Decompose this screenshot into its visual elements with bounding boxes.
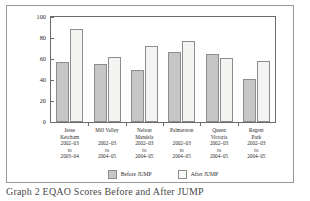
bar-after: [257, 61, 270, 122]
bar-before: [168, 52, 181, 122]
bar-before: [94, 64, 107, 122]
x-axis-label-line: to: [234, 147, 279, 154]
x-axis-tick-mark: [163, 123, 164, 126]
y-axis-tick-mark: [50, 17, 54, 18]
bar-after: [70, 29, 83, 122]
y-axis-tick-label: 20: [40, 98, 46, 104]
x-axis-label-line: 2004–05: [234, 153, 279, 160]
x-axis-labels: JesseKetcham2002–03to2003–04Mill Valley2…: [50, 127, 276, 169]
x-axis-label-line: 2002–03: [234, 140, 279, 147]
y-axis-tick-mark: [50, 38, 54, 39]
y-axis-tick-label: 80: [40, 35, 46, 41]
bar-before: [56, 62, 69, 122]
bar-after: [145, 46, 158, 122]
bar-after: [220, 58, 233, 122]
legend-swatch-before-icon: [108, 170, 117, 179]
y-axis-tick-mark: [50, 80, 54, 81]
x-axis-tick-mark: [88, 123, 89, 126]
legend-label-after: After JUMP: [191, 171, 219, 177]
bar-after: [182, 41, 195, 122]
bar-after: [108, 57, 121, 122]
y-axis-tick-mark: [50, 101, 54, 102]
y-axis: 020406080100: [20, 10, 50, 130]
x-axis-label-line: Regent: [234, 127, 279, 134]
legend-item-after[interactable]: After JUMP: [178, 170, 219, 179]
chart-figure: 020406080100 JesseKetcham2002–03to2003–0…: [0, 0, 310, 201]
bar-series-container: [51, 17, 275, 122]
legend-swatch-after-icon: [178, 170, 187, 179]
bar-before: [206, 54, 219, 122]
legend-item-before[interactable]: Before JUMP: [108, 170, 152, 179]
y-axis-tick-label: 100: [37, 14, 46, 20]
x-axis-tick-mark: [238, 123, 239, 126]
y-axis-tick-label: 40: [40, 77, 46, 83]
chart-legend: Before JUMP After JUMP: [50, 168, 276, 180]
bar-before: [243, 79, 256, 122]
legend-label-before: Before JUMP: [121, 171, 152, 177]
x-axis-tick-mark: [126, 123, 127, 126]
x-axis-tick-mark: [200, 123, 201, 126]
x-axis-label-line: Park: [234, 134, 279, 141]
bar-before: [131, 70, 144, 123]
x-axis-category-label: RegentPark2002–03to2004–05: [234, 127, 279, 160]
y-axis-tick-mark: [50, 122, 54, 123]
y-axis-tick-label: 60: [40, 56, 46, 62]
y-axis-tick-mark: [50, 59, 54, 60]
figure-caption: Graph 2 EQAO Scores Before and After JUM…: [6, 186, 306, 198]
y-axis-tick-label: 0: [43, 119, 46, 125]
